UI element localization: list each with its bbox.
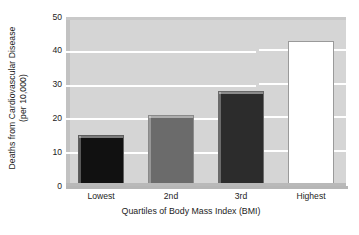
x-axis-title: Quartiles of Body Mass Index (BMI) — [36, 205, 346, 217]
bar — [218, 91, 264, 186]
gridline-segment — [66, 85, 256, 87]
x-axis-tick-label: 2nd — [136, 191, 206, 202]
y-axis-tick-labels: 01020304050 — [36, 0, 62, 196]
bar — [148, 115, 194, 186]
plot-area — [66, 17, 346, 186]
y-axis-title: Deaths from Cardiovascular Disease (per … — [0, 0, 36, 196]
y-axis-tick-label: 10 — [40, 148, 62, 157]
bar-chart-figure: Deaths from Cardiovascular Disease (per … — [0, 0, 359, 235]
y-axis-tick-label: 0 — [40, 182, 62, 191]
y-axis-tick-label: 40 — [40, 46, 62, 55]
axis-baseline-shadow — [66, 186, 348, 189]
x-axis-tick-labels: Lowest2nd3rdHighest — [66, 191, 346, 205]
x-axis-tick-label: Lowest — [66, 191, 136, 202]
bar-top-highlight — [79, 136, 123, 138]
bar-fill — [289, 42, 333, 185]
bar-fill — [79, 136, 123, 185]
bar-left-highlight — [79, 136, 81, 185]
bar — [78, 135, 124, 186]
bar-top-highlight — [219, 92, 263, 94]
bar-left-highlight — [149, 116, 151, 185]
bar-left-highlight — [219, 92, 221, 185]
y-axis-title-line-2: (per 10,000) — [18, 27, 29, 170]
bar-top-highlight — [149, 116, 193, 118]
gridline-segment — [66, 51, 256, 53]
y-axis-tick-label: 50 — [40, 13, 62, 22]
bar-fill — [149, 116, 193, 185]
bar-fill — [219, 92, 263, 185]
y-axis-tick-label: 30 — [40, 80, 62, 89]
y-axis-title-line-1: Deaths from Cardiovascular Disease — [7, 27, 18, 170]
x-axis-tick-label: Highest — [276, 191, 346, 202]
bar — [288, 41, 334, 186]
x-axis-tick-label: 3rd — [206, 191, 276, 202]
y-axis-tick-label: 20 — [40, 114, 62, 123]
